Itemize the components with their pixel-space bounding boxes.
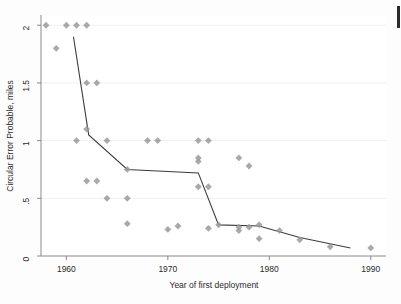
y-axis-title: Circular Error Probable, miles <box>5 80 15 191</box>
y-tick-label-0: 0 <box>21 256 31 261</box>
plot-area-background <box>41 16 386 256</box>
x-tick-label-1970: 1970 <box>158 264 177 274</box>
y-tick-label-2: 2 <box>21 26 31 31</box>
scatter-plot: 1960197019801990 0.511.52 Year of first … <box>0 0 401 304</box>
chart-figure: 1960197019801990 0.511.52 Year of first … <box>0 0 401 304</box>
x-tick-label-1960: 1960 <box>57 264 76 274</box>
y-tick-label-.5: .5 <box>21 197 31 204</box>
x-tick-label-1990: 1990 <box>361 264 380 274</box>
y-tick-label-1.5: 1.5 <box>21 80 31 92</box>
y-tick-label-1: 1 <box>21 141 31 146</box>
x-axis-title: Year of first deployment <box>170 280 260 290</box>
right-edge-artifact <box>397 6 400 28</box>
x-tick-label-1980: 1980 <box>260 264 279 274</box>
